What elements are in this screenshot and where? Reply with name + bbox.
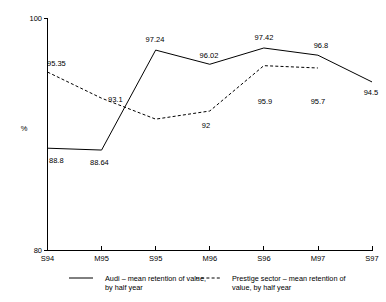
- legend-label-prestige-line1: Prestige sector – mean retention of: [232, 274, 347, 283]
- point-label-audi-s96: 97.42: [255, 33, 274, 42]
- point-label-audi-s95: 97.24: [146, 35, 165, 44]
- point-label-prestige-m97: 95.7: [311, 97, 326, 106]
- y-tick-label-100: 100: [29, 14, 42, 23]
- x-tick-label-m95: M95: [94, 254, 109, 263]
- legend-label-audi-line2: by half year: [105, 283, 143, 292]
- point-label-audi-s94: 88.8: [49, 156, 64, 165]
- point-label-audi-m97: 96.8: [314, 41, 329, 50]
- x-tick-label-m97: M97: [311, 254, 326, 263]
- point-label-audi-s97: 94.5: [364, 88, 379, 97]
- point-label-prestige-m95: 93.1: [108, 95, 123, 104]
- y-axis-title: %: [21, 124, 28, 133]
- point-label-audi-m96: 96.02: [200, 51, 219, 60]
- point-label-prestige-s96: 95.9: [258, 97, 273, 106]
- series-line-prestige: [48, 66, 318, 119]
- legend-label-prestige-line2: value, by half year: [232, 283, 292, 292]
- x-tick-label-s95: S95: [149, 254, 162, 263]
- legend-label-audi-line1: Audi – mean retention of value,: [105, 274, 206, 283]
- line-chart: 100 80 % S94 M95 S95 M96 S96 M97 S97 88.…: [0, 0, 386, 302]
- x-tick-label-m96: M96: [203, 254, 218, 263]
- point-label-prestige-m96: 92: [202, 121, 210, 130]
- x-tick-label-s96: S96: [257, 254, 270, 263]
- x-tick-label-s94: S94: [41, 254, 54, 263]
- point-label-prestige-s94: 95.35: [47, 59, 66, 68]
- point-label-audi-m95: 88.64: [90, 158, 109, 167]
- x-tick-label-s97: S97: [365, 254, 378, 263]
